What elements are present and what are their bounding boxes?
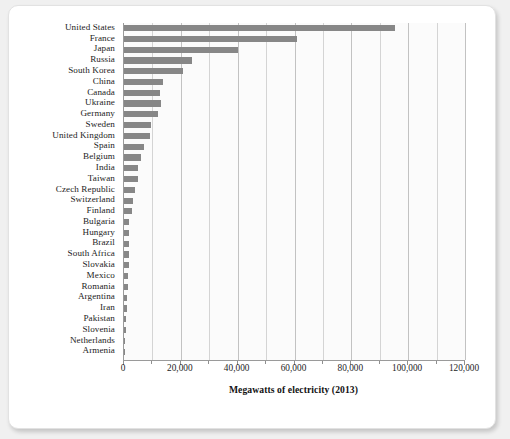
bar[interactable]: [124, 230, 129, 236]
bar[interactable]: [124, 327, 126, 333]
bar-row[interactable]: [124, 228, 465, 239]
category-label: South Africa: [68, 248, 115, 259]
bar[interactable]: [124, 100, 161, 106]
category-label: Japan: [94, 43, 115, 54]
bar-row[interactable]: [124, 98, 465, 109]
bar-row[interactable]: [124, 293, 465, 304]
bar-row[interactable]: [124, 109, 465, 120]
bar[interactable]: [124, 36, 297, 42]
x-tick-label: 40,000: [224, 363, 250, 373]
bar[interactable]: [124, 133, 150, 139]
category-label: Ukraine: [85, 97, 115, 108]
category-label: South Korea: [68, 65, 115, 76]
bar[interactable]: [124, 47, 238, 53]
bar-row[interactable]: [124, 120, 465, 131]
bar-row[interactable]: [124, 303, 465, 314]
category-label: Spain: [94, 140, 115, 151]
bar[interactable]: [124, 79, 163, 85]
bar-row[interactable]: [124, 55, 465, 66]
bar[interactable]: [124, 338, 125, 344]
bar-row[interactable]: [124, 66, 465, 77]
bar[interactable]: [124, 316, 126, 322]
category-label: Mexico: [87, 270, 115, 281]
bar[interactable]: [124, 176, 138, 182]
bar[interactable]: [124, 273, 128, 279]
bar[interactable]: [124, 144, 144, 150]
bar[interactable]: [124, 295, 127, 301]
category-label: Bulgaria: [83, 216, 115, 227]
category-label: Russia: [90, 54, 115, 65]
bar[interactable]: [124, 154, 141, 160]
category-label: Pakistan: [83, 313, 115, 324]
bar-row[interactable]: [124, 131, 465, 142]
x-tick-label: 20,000: [167, 363, 193, 373]
bar-row[interactable]: [124, 249, 465, 260]
bar[interactable]: [124, 262, 129, 268]
bar-row[interactable]: [124, 23, 465, 34]
category-label: United States: [65, 22, 115, 33]
bar-row[interactable]: [124, 239, 465, 250]
bar[interactable]: [124, 25, 395, 31]
category-label: Taiwan: [88, 173, 115, 184]
category-label: Slovenia: [82, 324, 115, 335]
bar-row[interactable]: [124, 142, 465, 153]
bar-row[interactable]: [124, 325, 465, 336]
bar-row[interactable]: [124, 34, 465, 45]
bar[interactable]: [124, 208, 132, 214]
bar[interactable]: [124, 198, 133, 204]
x-tick-label: 60,000: [281, 363, 307, 373]
bar[interactable]: [124, 68, 183, 74]
category-label: Armenia: [82, 345, 115, 356]
plot-area: [123, 23, 465, 361]
x-tick-label: 0: [121, 363, 126, 373]
category-label: China: [93, 76, 115, 87]
category-label: Hungary: [82, 227, 115, 238]
bar-row[interactable]: [124, 336, 465, 347]
bar-row[interactable]: [124, 206, 465, 217]
bar[interactable]: [124, 251, 129, 257]
category-label: India: [96, 162, 115, 173]
x-tick-label: 80,000: [338, 363, 364, 373]
bar-row[interactable]: [124, 347, 465, 358]
bar[interactable]: [124, 284, 128, 290]
bar[interactable]: [124, 165, 138, 171]
bar-row[interactable]: [124, 163, 465, 174]
bar-row[interactable]: [124, 282, 465, 293]
category-label: United Kingdom: [52, 130, 115, 141]
bar-row[interactable]: [124, 260, 465, 271]
category-label: Canada: [87, 87, 115, 98]
category-label: Finland: [87, 205, 116, 216]
bar-row[interactable]: [124, 77, 465, 88]
category-label: Belgium: [83, 151, 115, 162]
bar[interactable]: [124, 57, 192, 63]
bar[interactable]: [124, 219, 129, 225]
bar-row[interactable]: [124, 217, 465, 228]
bar[interactable]: [124, 111, 158, 117]
bar-row[interactable]: [124, 185, 465, 196]
bar-row[interactable]: [124, 88, 465, 99]
bar[interactable]: [124, 187, 135, 193]
bar[interactable]: [124, 241, 129, 247]
bar-row[interactable]: [124, 45, 465, 56]
x-axis-title: Megawatts of electricity (2013): [123, 384, 464, 395]
category-label: Sweden: [86, 119, 115, 130]
x-tick-label: 120,000: [449, 363, 479, 373]
screenshot-page: United StatesFranceJapanRussiaSouth Kore…: [0, 0, 510, 439]
bar-row[interactable]: [124, 196, 465, 207]
category-label: Switzerland: [70, 194, 115, 205]
bar[interactable]: [124, 122, 151, 128]
figure-card: United StatesFranceJapanRussiaSouth Kore…: [8, 5, 496, 429]
bar[interactable]: [124, 305, 127, 311]
x-axis-tick-labels: 020,00040,00060,00080,000100,000120,000: [9, 363, 495, 379]
category-label: Brazil: [92, 237, 115, 248]
bar-row[interactable]: [124, 152, 465, 163]
bar-row[interactable]: [124, 271, 465, 282]
bar-row[interactable]: [124, 314, 465, 325]
nuclear-capacity-bar-chart: United StatesFranceJapanRussiaSouth Kore…: [9, 6, 495, 428]
bar-row[interactable]: [124, 174, 465, 185]
category-label: Czech Republic: [56, 184, 115, 195]
category-label: Netherlands: [70, 335, 115, 346]
bar[interactable]: [124, 349, 125, 355]
category-label: Iran: [100, 302, 115, 313]
bar[interactable]: [124, 90, 160, 96]
